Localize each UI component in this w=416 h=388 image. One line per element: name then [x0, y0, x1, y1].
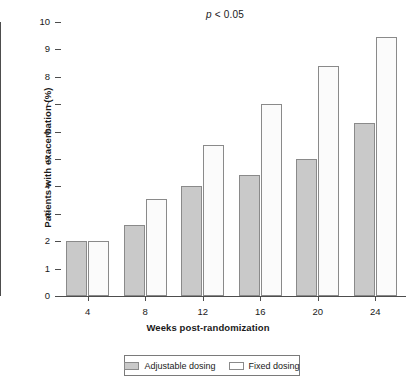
y-axis-tick	[55, 77, 61, 78]
chart-legend: Adjustable dosing Fixed dosing	[124, 355, 300, 376]
bar-adjustable-week-12	[181, 186, 202, 296]
y-axis-tick-label: 0	[26, 291, 50, 301]
y-axis-tick-label: 5	[26, 154, 50, 164]
y-axis-tick	[55, 214, 61, 215]
x-axis-tick-label: 20	[298, 306, 338, 317]
exacerbation-bar-chart: p < 0.05 Patients with exacerbation (%) …	[0, 0, 416, 388]
bar-fixed-week-20	[318, 66, 339, 296]
legend-item-fixed: Fixed dosing	[229, 361, 300, 371]
x-axis-title: Weeks post-randomization	[0, 322, 416, 333]
bar-adjustable-week-8	[124, 225, 145, 296]
legend-label-fixed: Fixed dosing	[249, 361, 300, 371]
y-axis-line	[0, 22, 1, 296]
y-axis-tick	[55, 132, 61, 133]
bar-adjustable-week-20	[296, 159, 317, 296]
y-axis-tick	[55, 186, 61, 187]
y-axis-tick	[55, 22, 61, 23]
bar-fixed-week-24	[376, 37, 397, 296]
legend-swatch-adjustable-icon	[124, 362, 139, 370]
bar-adjustable-week-24	[354, 123, 375, 296]
bar-fixed-week-16	[261, 104, 282, 296]
y-axis-tick-label: 6	[26, 127, 50, 137]
bar-fixed-week-4	[88, 241, 109, 296]
legend-swatch-fixed-icon	[229, 362, 244, 370]
x-axis-tick	[145, 296, 146, 301]
x-axis-tick	[203, 296, 204, 301]
p-value-annotation: p < 0.05	[170, 9, 280, 20]
x-axis-tick	[375, 296, 376, 301]
p-value-threshold: < 0.05	[212, 9, 244, 20]
y-axis-tick-label: 3	[26, 209, 50, 219]
y-axis-tick	[55, 159, 61, 160]
y-axis-tick-label: 10	[26, 17, 50, 27]
y-axis-tick	[55, 104, 61, 105]
y-axis-tick-label: 7	[26, 99, 50, 109]
y-axis-tick	[55, 296, 61, 297]
x-axis-tick-label: 8	[125, 306, 165, 317]
legend-item-adjustable: Adjustable dosing	[124, 361, 215, 371]
x-axis-tick-label: 12	[183, 306, 223, 317]
y-axis-tick-label: 8	[26, 72, 50, 82]
y-axis-tick	[55, 241, 61, 242]
x-axis-tick-label: 16	[240, 306, 280, 317]
x-axis-tick	[260, 296, 261, 301]
y-axis-tick-label: 4	[26, 181, 50, 191]
legend-label-adjustable: Adjustable dosing	[144, 361, 215, 371]
x-axis-tick-label: 24	[355, 306, 395, 317]
bar-fixed-week-8	[146, 199, 167, 296]
y-axis-tick-label: 9	[26, 44, 50, 54]
bar-adjustable-week-16	[239, 175, 260, 296]
y-axis-tick-label: 2	[26, 236, 50, 246]
bar-adjustable-week-4	[66, 241, 87, 296]
bar-fixed-week-12	[203, 145, 224, 296]
x-axis-tick	[318, 296, 319, 301]
x-axis-line	[61, 296, 406, 297]
y-axis-tick	[55, 49, 61, 50]
x-axis-tick	[88, 296, 89, 301]
x-axis-tick-label: 4	[68, 306, 108, 317]
y-axis-tick-label: 1	[26, 264, 50, 274]
y-axis-tick	[55, 269, 61, 270]
